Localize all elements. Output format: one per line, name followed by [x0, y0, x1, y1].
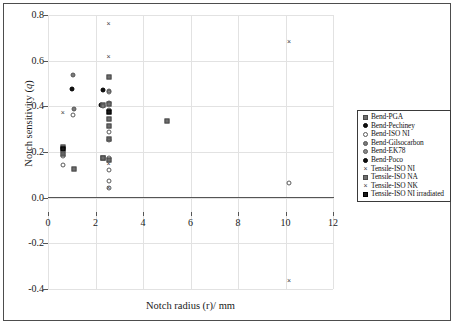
y-axis-tick	[43, 198, 48, 199]
data-point	[100, 156, 105, 161]
y-axis-tick	[43, 15, 48, 16]
x-axis-tick	[143, 212, 144, 216]
filled-circle-black-icon	[363, 123, 368, 128]
legend-marker-icon	[361, 182, 370, 190]
gridline-vertical	[191, 15, 192, 289]
gridline-vertical	[143, 15, 144, 289]
y-axis-tick-label: -0.2	[4, 238, 44, 248]
data-point	[164, 119, 169, 124]
legend-box: Bend-PGABend-PechineyBend-ISO NIBend-Gil…	[357, 110, 451, 202]
data-point	[100, 87, 105, 92]
x-axis-tick-label: 10	[271, 217, 301, 228]
y-axis-title: Notch sensitivity (q)	[23, 34, 34, 214]
data-point	[106, 102, 111, 107]
figure-container: 0.80.60.40.20.0-0.2-0.4 Notch sensitivit…	[0, 0, 455, 325]
x-axis-tick	[96, 212, 97, 216]
legend-marker-icon	[361, 165, 370, 173]
x-axis-tick-label: 8	[223, 217, 253, 228]
filled-square-grey-icon	[363, 115, 368, 120]
data-point	[106, 137, 111, 142]
filled-square-black-icon	[363, 192, 368, 197]
legend-marker-icon	[361, 148, 370, 156]
y-axis-tick-label: 0.8	[4, 10, 44, 20]
x-axis-tick-label: 2	[81, 217, 111, 228]
y-axis-tick	[43, 289, 48, 290]
data-point	[286, 278, 292, 284]
data-point	[106, 129, 111, 134]
data-point	[106, 116, 111, 121]
x-axis-tick-label: 12	[318, 217, 348, 228]
data-point	[60, 162, 65, 167]
x-axis-tick-label: 4	[128, 217, 158, 228]
data-point	[106, 89, 111, 94]
x-axis-line	[48, 197, 334, 198]
legend-marker-icon	[361, 173, 370, 181]
data-point	[106, 21, 112, 27]
data-point	[70, 113, 75, 118]
x-axis-tick-label: 6	[176, 217, 206, 228]
data-point	[61, 147, 66, 152]
filled-circle-black-icon	[363, 158, 368, 163]
cross-x-icon	[363, 183, 369, 189]
data-point	[72, 106, 77, 111]
x-axis-tick	[333, 212, 334, 216]
data-point	[60, 110, 66, 116]
data-point	[106, 178, 111, 183]
x-axis-tick-label: 0	[33, 217, 63, 228]
y-axis-tick	[43, 243, 48, 244]
plot-area: 024681012	[48, 15, 333, 289]
legend-marker-icon	[361, 156, 370, 164]
data-point	[69, 86, 74, 91]
legend-marker-icon	[361, 113, 370, 121]
x-axis-title: Notch radius (r)/ mm	[48, 300, 333, 311]
y-axis-tick-label: -0.4	[4, 284, 44, 294]
legend-marker-icon	[361, 139, 370, 147]
x-axis-tick	[286, 212, 287, 216]
legend-marker-icon	[361, 191, 370, 199]
data-point	[106, 110, 111, 115]
filled-circle-grey-icon	[363, 141, 368, 146]
cross-x-icon	[363, 166, 369, 172]
legend-label: Tensile-ISO NI irradiated	[371, 190, 444, 198]
legend-item: Tensile-ISO NI irradiated	[361, 190, 448, 199]
data-point	[106, 185, 112, 191]
gridline-vertical	[96, 15, 97, 289]
filled-square-grey-icon	[363, 175, 368, 180]
gridline-vertical	[48, 15, 49, 289]
legend-marker-icon	[361, 130, 370, 138]
data-point	[106, 54, 112, 60]
open-circle-icon	[363, 132, 368, 137]
data-point	[106, 74, 111, 79]
data-point	[72, 167, 77, 172]
gridline-vertical	[286, 15, 287, 289]
gridline-horizontal	[48, 289, 333, 290]
y-axis-tick	[43, 152, 48, 153]
data-point	[70, 72, 75, 77]
data-point	[286, 39, 292, 45]
data-point	[106, 123, 111, 128]
data-point	[287, 180, 292, 185]
gridline-vertical	[333, 15, 334, 289]
x-axis-tick	[238, 212, 239, 216]
data-point	[106, 167, 111, 172]
legend-marker-icon	[361, 122, 370, 130]
y-axis-tick	[43, 61, 48, 62]
x-axis-tick	[48, 212, 49, 216]
data-point	[61, 154, 66, 159]
y-axis-tick	[43, 106, 48, 107]
x-axis-tick	[191, 212, 192, 216]
data-point	[101, 103, 106, 108]
data-point	[106, 161, 112, 167]
filled-circle-grey2-icon	[363, 149, 368, 154]
gridline-vertical	[238, 15, 239, 289]
